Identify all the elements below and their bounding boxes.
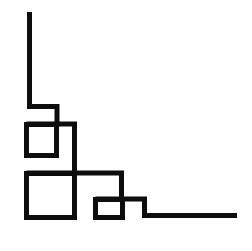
staircase-figure-canvas: [0, 0, 252, 251]
